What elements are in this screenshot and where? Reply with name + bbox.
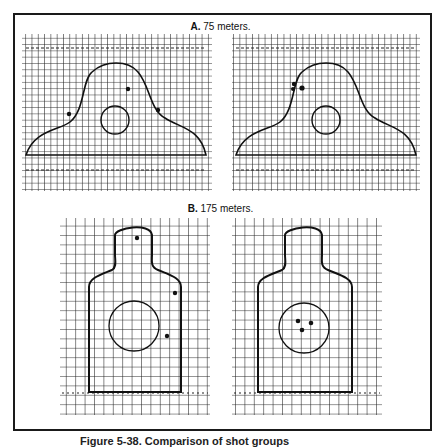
shot-hole — [156, 108, 160, 112]
figure-caption: Figure 5-38. Comparison of shot groups — [80, 435, 289, 447]
shot-hole — [296, 319, 301, 324]
shot-hole — [292, 82, 296, 86]
grid — [60, 218, 210, 415]
shot-hole — [126, 87, 130, 91]
target-b-right — [232, 218, 382, 415]
shot-hole — [67, 112, 71, 116]
shot-hole — [309, 321, 314, 326]
shot-hole — [299, 85, 304, 90]
shot-hole — [165, 334, 169, 338]
grid — [232, 34, 420, 191]
target-a-right — [232, 34, 420, 191]
shot-hole — [135, 236, 139, 240]
grid — [22, 34, 212, 191]
shot-hole — [300, 328, 305, 333]
target-a-left — [22, 34, 212, 191]
shot-hole — [291, 87, 295, 91]
shot-hole — [173, 291, 177, 295]
target-b-left — [60, 218, 210, 415]
grid — [232, 218, 382, 415]
